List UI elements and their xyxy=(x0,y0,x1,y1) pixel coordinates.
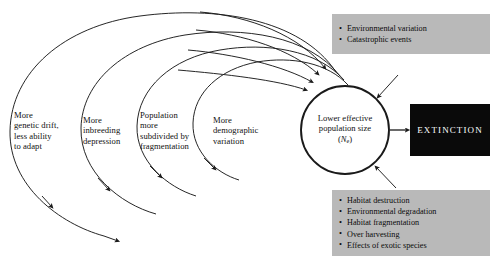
vortex-arc-3-mid xyxy=(150,166,161,177)
ring-label-line: fragmentation xyxy=(140,141,206,151)
ring-label-line: More xyxy=(14,110,76,120)
ring-label-line: inbreeding xyxy=(83,125,141,135)
extinction-box: EXTINCTION xyxy=(410,104,490,156)
vortex-arc-4-mid xyxy=(204,158,215,169)
arrow-into-core-3 xyxy=(188,50,312,82)
vortex-arc-1-head xyxy=(104,236,118,241)
core-label: Lower effective population size (Ne) xyxy=(300,113,390,146)
arrow-into-core-2 xyxy=(196,30,318,74)
ring-label-inbreeding: More inbreeding depression xyxy=(83,115,141,146)
ring-label-line: Population xyxy=(140,110,206,120)
top-factors-box: Environmental variation Catastrophic eve… xyxy=(332,14,490,54)
arrow-into-core-1 xyxy=(200,12,325,68)
list-item: Effects of exotic species xyxy=(338,240,490,251)
extinction-vortex-diagram: More genetic drift, less ability to adap… xyxy=(0,0,497,261)
arrow-into-core-4 xyxy=(178,70,306,90)
top-factors-list: Environmental variation Catastrophic eve… xyxy=(338,23,490,45)
ring-label-line: to adapt xyxy=(14,141,76,151)
arrow-top-box-to-core xyxy=(378,75,398,97)
ring-label-line: more xyxy=(140,120,206,130)
ring-label-demographic: More demographic variation xyxy=(213,115,273,146)
arrow-bottom-box-to-core xyxy=(376,167,396,188)
ring-label-line: variation xyxy=(213,136,273,146)
ring-label-line: less ability xyxy=(14,131,76,141)
paren-close: ) xyxy=(349,134,352,144)
ring-label-line: depression xyxy=(83,136,141,146)
core-label-line1: Lower effective xyxy=(300,113,390,123)
ring-label-line: genetic drift, xyxy=(14,120,76,130)
list-item: Over harvesting xyxy=(338,229,490,240)
ring-label-line: demographic xyxy=(213,125,273,135)
core-label-line2: population size xyxy=(300,123,390,133)
vortex-arc-1-mid xyxy=(42,196,52,207)
bottom-factors-box: Habitat destruction Environmental degrad… xyxy=(332,190,490,256)
list-item: Catastrophic events xyxy=(338,34,490,45)
list-item: Environmental variation xyxy=(338,23,490,34)
list-item: Habitat destruction xyxy=(338,195,490,206)
bottom-factors-list: Habitat destruction Environmental degrad… xyxy=(338,195,490,251)
list-item: Habitat fragmentation xyxy=(338,217,490,228)
ring-label-genetic-drift: More genetic drift, less ability to adap… xyxy=(14,110,76,152)
extinction-label: EXTINCTION xyxy=(417,125,483,135)
list-item: Environmental degradation xyxy=(338,206,490,217)
vortex-arc-2-mid xyxy=(98,178,109,190)
ring-label-line: subdivided by xyxy=(140,131,206,141)
ring-label-line: More xyxy=(213,115,273,125)
ring-label-line: More xyxy=(83,115,141,125)
ring-label-fragmentation: Population more subdivided by fragmentat… xyxy=(140,110,206,152)
core-label-symbol: (Ne) xyxy=(300,134,390,146)
